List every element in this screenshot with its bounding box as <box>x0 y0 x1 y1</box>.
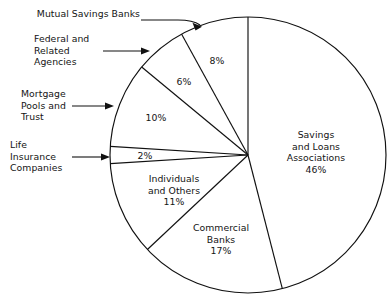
callout-line: Insurance <box>10 151 76 163</box>
callout-line: Life <box>10 139 76 151</box>
slice-label-line: Associations <box>272 152 360 164</box>
callout-line: Companies <box>10 162 76 174</box>
callout-line: Federal and <box>34 33 104 45</box>
slice-label-savings-and-loans-associations: Savings and Loans Associations 46% <box>272 129 360 175</box>
callout-line: Trust <box>21 111 91 123</box>
slice-percent-mutual-savings-banks: 8% <box>203 55 231 67</box>
callout-line: Mutual Savings Banks <box>6 8 140 20</box>
slice-label-individuals-and-others: Individuals and Others 11% <box>133 173 215 208</box>
slice-label-percent: 2% <box>131 150 159 162</box>
slice-label-line: and Loans <box>272 141 360 153</box>
callout-life-insurance-companies: Life Insurance Companies <box>10 139 76 174</box>
slice-label-percent: 17% <box>180 245 262 257</box>
slice-percent-life-insurance-companies: 2% <box>131 150 159 162</box>
leader-line-mutual-savings-banks <box>141 20 200 25</box>
slice-label-percent: 11% <box>133 196 215 208</box>
pie-chart-figure: Mutual Savings Banks Federal and Related… <box>0 0 388 305</box>
slice-label-percent: 8% <box>203 55 231 67</box>
slice-label-percent: 6% <box>170 76 198 88</box>
slice-label-line: Commercial <box>180 222 262 234</box>
slice-percent-federal-related-agencies: 6% <box>170 76 198 88</box>
slice-label-commercial-banks: Commercial Banks 17% <box>180 222 262 257</box>
callout-line: Agencies <box>34 56 104 68</box>
slice-label-line: Individuals <box>133 173 215 185</box>
slice-label-percent: 10% <box>140 112 172 124</box>
slice-label-line: and Others <box>133 185 215 197</box>
callout-line: Mortgage <box>21 88 91 100</box>
slice-label-line: Savings <box>272 129 360 141</box>
leader-arrowhead-mortgage-pools-trust <box>105 102 114 109</box>
leader-arrowhead-life-insurance-companies <box>101 153 110 160</box>
callout-mutual-savings-banks: Mutual Savings Banks <box>6 8 140 20</box>
slice-label-line: Banks <box>180 234 262 246</box>
callout-line: Related <box>34 45 104 57</box>
slice-percent-mortgage-pools-trust: 10% <box>140 112 172 124</box>
slice-label-percent: 46% <box>272 164 360 176</box>
callout-line: Pools and <box>21 100 91 112</box>
leader-arrowhead-federal-related-agencies <box>141 47 150 54</box>
callout-federal-related-agencies: Federal and Related Agencies <box>34 33 104 68</box>
callout-mortgage-pools-trust: Mortgage Pools and Trust <box>21 88 91 123</box>
